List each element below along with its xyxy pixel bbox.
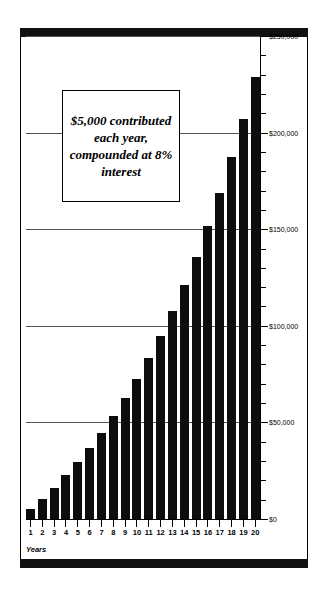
y-tick-minor	[261, 384, 266, 385]
x-axis-label: 9	[121, 528, 130, 537]
x-tick	[239, 520, 248, 527]
x-axis-label: 3	[50, 528, 59, 537]
y-tick-minor	[261, 210, 266, 211]
x-axis-label: 11	[144, 528, 153, 537]
x-axis-label: 18	[227, 528, 236, 537]
x-axis-label: 19	[239, 528, 248, 537]
bar	[203, 226, 212, 519]
y-tick-minor	[261, 55, 266, 56]
y-tick-minor	[261, 152, 266, 153]
x-axis-label: 12	[156, 528, 165, 537]
x-tick	[38, 520, 47, 527]
x-axis-ticks	[26, 520, 260, 527]
bar	[144, 358, 153, 519]
x-axis-label: 2	[38, 528, 47, 537]
x-axis-label: 14	[180, 528, 189, 537]
y-axis-label: $0	[269, 516, 277, 523]
bar	[168, 311, 177, 519]
x-tick	[97, 520, 106, 527]
y-tick-minor	[261, 345, 266, 346]
y-tick-major	[261, 133, 268, 134]
y-tick-minor	[261, 287, 266, 288]
bar	[109, 416, 118, 519]
y-tick-major	[261, 519, 268, 520]
x-tick	[156, 520, 165, 527]
bar	[156, 336, 165, 519]
y-tick-major	[261, 422, 268, 423]
bar	[73, 462, 82, 519]
x-axis-label: 8	[109, 528, 118, 537]
x-tick	[180, 520, 189, 527]
x-axis-label: 4	[61, 528, 70, 537]
bar	[38, 499, 47, 519]
x-tick	[251, 520, 260, 527]
bar	[97, 433, 106, 519]
bar	[251, 77, 260, 519]
y-axis-label: $100,000	[269, 322, 298, 329]
x-axis-label: 17	[215, 528, 224, 537]
y-axis-label: $50,000	[269, 419, 294, 426]
bar	[227, 157, 236, 519]
chart-page: $0$50,000$100,000$150,000$200,000$250,00…	[0, 0, 336, 592]
annotation-text: $5,000 contributed each year, compounded…	[63, 112, 179, 181]
y-tick-major	[261, 229, 268, 230]
bar	[192, 257, 201, 519]
x-axis-label: 5	[73, 528, 82, 537]
bar	[61, 475, 70, 519]
x-tick	[109, 520, 118, 527]
annotation-box: $5,000 contributed each year, compounded…	[62, 90, 180, 202]
x-tick	[227, 520, 236, 527]
x-tick	[61, 520, 70, 527]
x-tick	[168, 520, 177, 527]
bottom-rule	[20, 559, 308, 568]
y-axis-label: $200,000	[269, 129, 298, 136]
y-tick-minor	[261, 442, 266, 443]
x-axis-label: 1	[26, 528, 35, 537]
x-tick	[121, 520, 130, 527]
bar	[215, 193, 224, 519]
y-tick-major	[261, 36, 268, 37]
x-axis-label: 7	[97, 528, 106, 537]
x-tick	[215, 520, 224, 527]
x-tick	[144, 520, 153, 527]
y-tick-minor	[261, 94, 266, 95]
bar	[26, 509, 35, 519]
y-tick-minor	[261, 364, 266, 365]
y-axis-line	[260, 36, 261, 520]
bar	[239, 119, 248, 519]
x-axis-label: 16	[203, 528, 212, 537]
x-axis-label: 15	[192, 528, 201, 537]
x-tick	[26, 520, 35, 527]
x-axis-label: 10	[132, 528, 141, 537]
x-tick	[50, 520, 59, 527]
x-axis-label: 6	[85, 528, 94, 537]
x-tick	[132, 520, 141, 527]
bar	[50, 488, 59, 519]
bar	[180, 285, 189, 519]
y-tick-minor	[261, 113, 266, 114]
y-tick-minor	[261, 268, 266, 269]
x-tick	[203, 520, 212, 527]
y-tick-major	[261, 326, 268, 327]
y-tick-minor	[261, 249, 266, 250]
bar	[121, 398, 130, 519]
y-tick-minor	[261, 500, 266, 501]
bar	[85, 448, 94, 519]
y-tick-minor	[261, 191, 266, 192]
y-tick-minor	[261, 306, 266, 307]
y-axis-label: $250,000	[269, 33, 298, 40]
y-tick-minor	[261, 75, 266, 76]
bar	[132, 379, 141, 519]
y-tick-minor	[261, 480, 266, 481]
y-tick-minor	[261, 171, 266, 172]
x-axis-label: 20	[251, 528, 260, 537]
y-tick-minor	[261, 461, 266, 462]
y-axis-label: $150,000	[269, 226, 298, 233]
x-tick	[192, 520, 201, 527]
x-axis-title: Years	[26, 545, 46, 554]
x-tick	[73, 520, 82, 527]
x-tick	[85, 520, 94, 527]
x-axis-label: 13	[168, 528, 177, 537]
x-axis-labels: 1234567891011121314151617181920	[26, 528, 260, 537]
y-tick-minor	[261, 403, 266, 404]
